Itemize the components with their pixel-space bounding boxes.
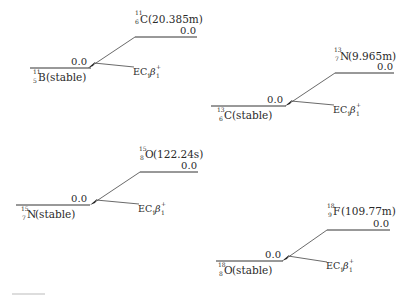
parent-halflife: (109.77m)	[341, 205, 396, 217]
parent-atomic-number: 7	[335, 55, 339, 62]
daughter-halflife: (stable)	[232, 264, 272, 276]
decay-scheme-diagram: 11 6 C (20.385m) 0.0 0.0 11 5 B (stable)…	[0, 0, 410, 295]
decay-mode-beta-sup: +	[161, 200, 166, 207]
parent-level-energy: 0.0	[180, 25, 196, 36]
decay-arrowhead-icon	[285, 100, 292, 106]
daughter-halflife: (stable)	[232, 109, 272, 121]
parent-atomic-number: 6	[135, 18, 139, 25]
decay-mode-ec: EC	[326, 260, 340, 271]
daughter-halflife: (stable)	[35, 208, 75, 220]
decay-transition-line	[93, 37, 135, 65]
decay-transition-line	[290, 73, 335, 103]
parent-symbol: C	[140, 13, 148, 25]
branch-line	[96, 200, 139, 204]
decay-arrowhead-icon	[90, 199, 97, 205]
decay-transition-line	[287, 230, 327, 258]
decay-mode-beta: β	[342, 260, 349, 271]
decay-panel-n13: 13 7 N (9.965m) 0.0 0.0 13 6 C (stable) …	[211, 46, 396, 122]
daughter-atomic-number: 6	[219, 115, 223, 122]
daughter-level-energy: 0.0	[265, 249, 281, 260]
decay-mode-beta-sub: 1	[161, 209, 165, 216]
branch-line	[291, 101, 334, 105]
decay-mode-ec: EC	[133, 66, 147, 77]
decay-arrowhead-icon	[282, 255, 289, 261]
parent-halflife: (122.24s)	[153, 148, 203, 160]
daughter-atomic-number: 5	[33, 77, 37, 84]
decay-mode-beta-sub: 1	[356, 110, 360, 117]
decay-arrowhead-icon	[88, 62, 95, 68]
decay-mode-beta-sup: +	[349, 257, 354, 264]
decay-mode-beta-sup: +	[156, 63, 161, 70]
parent-level-energy: 0.0	[377, 61, 393, 72]
parent-level-energy: 0.0	[373, 218, 389, 229]
decay-panel-o15: 15 8 O (122.24s) 0.0 0.0 15 7 N (stable)…	[16, 145, 203, 221]
decay-mode-beta: β	[349, 104, 356, 115]
decay-panel-f18: 18 9 F (109.77m) 0.0 0.0 18 8 O (stable)…	[216, 202, 396, 277]
daughter-atomic-number: 7	[22, 214, 26, 221]
parent-level-energy: 0.0	[181, 160, 197, 171]
decay-mode-beta-sub: 1	[156, 72, 160, 79]
branch-line	[288, 256, 327, 262]
parent-atomic-number: 9	[328, 211, 332, 218]
daughter-symbol: C	[224, 109, 232, 121]
daughter-level-energy: 0.0	[71, 193, 87, 204]
decay-mode-beta: β	[149, 66, 156, 77]
daughter-symbol: B	[38, 71, 46, 83]
branch-line	[94, 63, 134, 67]
decay-mode-ec: EC	[138, 203, 152, 214]
decay-panel-c11: 11 6 C (20.385m) 0.0 0.0 11 5 B (stable)…	[30, 9, 203, 84]
parent-symbol: F	[333, 205, 340, 217]
daughter-level-energy: 0.0	[267, 94, 283, 105]
parent-halflife: (20.385m)	[148, 13, 203, 25]
daughter-atomic-number: 8	[219, 270, 223, 277]
decay-mode-beta-sup: +	[356, 101, 361, 108]
decay-mode-ec: EC	[333, 104, 347, 115]
decay-transition-line	[95, 172, 140, 202]
daughter-level-energy: 0.0	[71, 56, 87, 67]
daughter-halflife: (stable)	[46, 71, 86, 83]
decay-mode-beta-sub: 1	[349, 266, 353, 273]
decay-mode-beta: β	[154, 203, 161, 214]
parent-atomic-number: 8	[140, 154, 144, 161]
